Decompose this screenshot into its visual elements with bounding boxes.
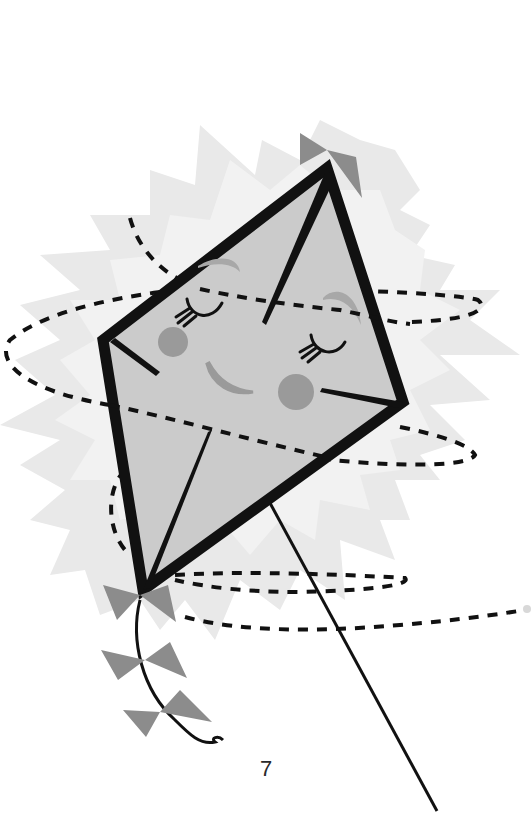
page-number: 7 [0,756,532,782]
left-cheek [158,327,188,357]
right-cheek [278,374,314,410]
kite-illustration [0,0,532,813]
book-page: 7 [0,0,532,813]
swirl-end-dot [523,605,531,613]
